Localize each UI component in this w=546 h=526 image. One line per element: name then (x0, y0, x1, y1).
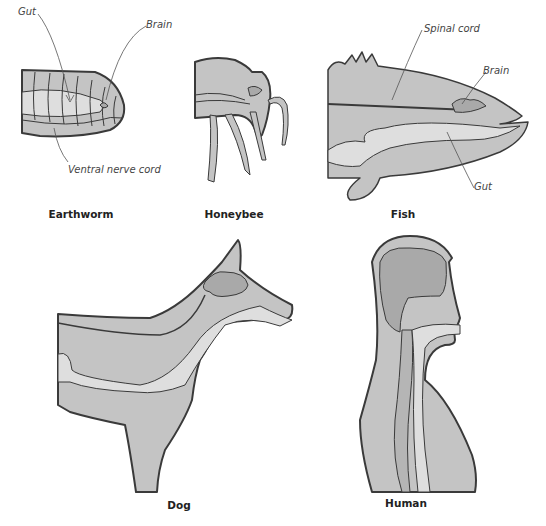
fish-illustration (328, 30, 528, 200)
earthworm-gut-label: Gut (18, 6, 36, 17)
dog-illustration (58, 240, 292, 492)
earthworm-brain-label: Brain (146, 19, 172, 30)
human-caption: Human (385, 497, 427, 509)
fish-gut-label: Gut (474, 181, 492, 192)
human-illustration (360, 236, 476, 492)
fish-brain-label: Brain (483, 65, 509, 76)
dog-caption: Dog (167, 499, 190, 511)
earthworm-ventral-nerve-cord-label: Ventral nerve cord (68, 164, 161, 175)
fish-spinal-cord-label: Spinal cord (424, 23, 480, 34)
honeybee-illustration (195, 58, 288, 182)
honeybee-caption: Honeybee (204, 208, 263, 220)
earthworm-caption: Earthworm (49, 208, 114, 220)
earthworm-illustration (22, 14, 146, 162)
fish-caption: Fish (391, 208, 416, 220)
comparative-anatomy-figure (0, 0, 546, 526)
